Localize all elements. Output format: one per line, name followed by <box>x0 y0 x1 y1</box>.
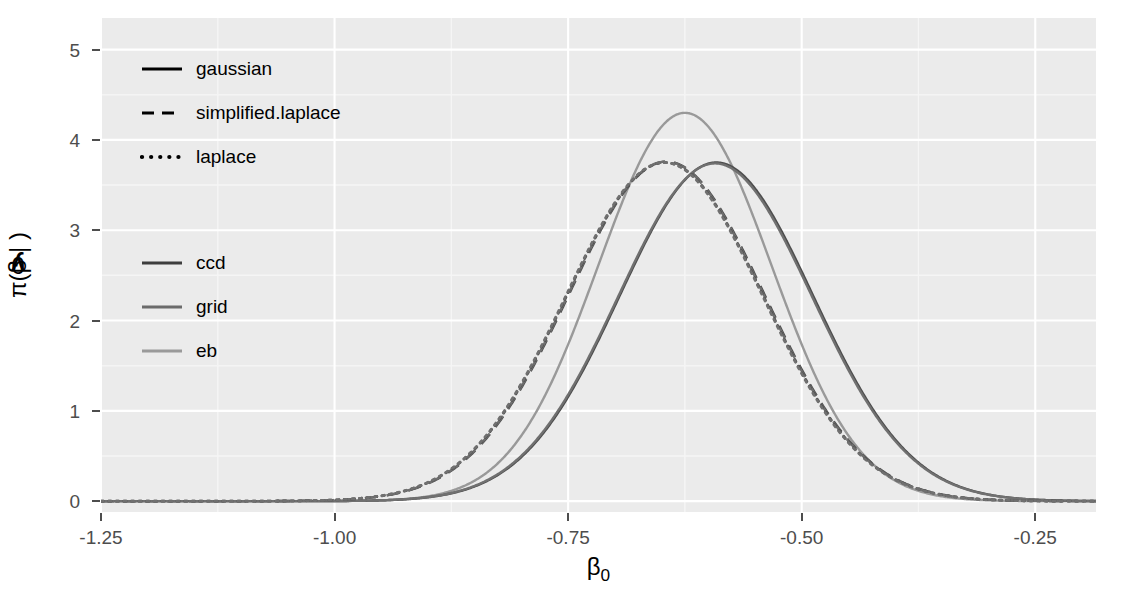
legend-strategy-item[interactable]: eb <box>140 329 228 373</box>
y-axis-title: π(β0 | y) <box>0 18 36 512</box>
x-tick-label: -0.50 <box>780 528 823 547</box>
y-tick-label: 5 <box>36 40 80 59</box>
x-tick-mark <box>1034 513 1036 521</box>
legend-strategy-label: grid <box>196 296 228 318</box>
x-axis-title-text: β0 <box>587 553 610 580</box>
y-axis-title-text: π(β0 | y) <box>4 232 32 298</box>
legend-method-label: laplace <box>196 146 256 168</box>
x-tick-mark <box>801 513 803 521</box>
density-curve <box>101 162 1096 502</box>
legend-strategy-key-solid-icon <box>140 285 184 329</box>
x-tick-mark <box>100 513 102 521</box>
y-tick-mark <box>92 320 100 322</box>
chart-figure: 012345 -1.25-1.00-0.75-0.50-0.25 β0 π(β0… <box>0 0 1123 602</box>
legend-method-key-solid-icon <box>140 47 184 91</box>
y-tick-mark <box>92 49 100 51</box>
legend-strategy-key-solid-icon <box>140 241 184 285</box>
x-tick-mark <box>567 513 569 521</box>
legend-method-item[interactable]: laplace <box>140 135 341 179</box>
density-curve <box>101 163 1096 501</box>
y-tick-label: 2 <box>36 311 80 330</box>
density-curve <box>101 163 1096 502</box>
y-tick-mark <box>92 229 100 231</box>
density-curve <box>101 162 1096 502</box>
density-curve <box>101 163 1096 502</box>
legend-method-item[interactable]: simplified.laplace <box>140 91 341 135</box>
legend-method-label: simplified.laplace <box>196 102 341 124</box>
y-tick-mark <box>92 500 100 502</box>
legend-method-item[interactable]: gaussian <box>140 47 341 91</box>
legend-strategy-item[interactable]: ccd <box>140 241 228 285</box>
x-tick-mark <box>334 513 336 521</box>
legend-strategy-key-solid-icon <box>140 329 184 373</box>
x-tick-label: -0.25 <box>1014 528 1057 547</box>
x-tick-label: -1.00 <box>313 528 356 547</box>
legend-strategy: ccdgrideb <box>140 241 228 373</box>
y-tick-label: 0 <box>36 492 80 511</box>
legend-method-key-dotted-icon <box>140 135 184 179</box>
legend-method: gaussiansimplified.laplacelaplace <box>140 47 341 179</box>
x-tick-label: -1.25 <box>79 528 122 547</box>
y-tick-mark <box>92 139 100 141</box>
y-tick-label: 3 <box>36 221 80 240</box>
legend-method-key-dashed-icon <box>140 91 184 135</box>
legend-strategy-label: ccd <box>196 252 226 274</box>
legend-method-label: gaussian <box>196 58 272 80</box>
x-tick-label: -0.75 <box>546 528 589 547</box>
x-axis-title: β0 <box>101 553 1096 586</box>
y-tick-mark <box>92 410 100 412</box>
legend-strategy-item[interactable]: grid <box>140 285 228 329</box>
density-curve <box>101 163 1096 502</box>
y-tick-label: 1 <box>36 401 80 420</box>
legend-strategy-label: eb <box>196 340 217 362</box>
y-tick-label: 4 <box>36 130 80 149</box>
